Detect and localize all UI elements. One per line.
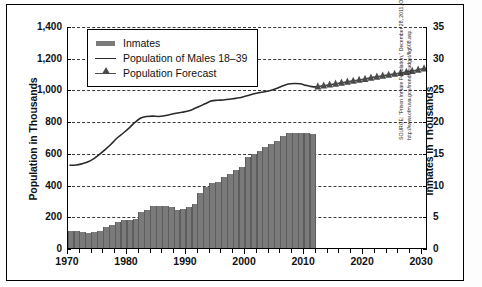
legend-label-population: Population of Males 18–39: [123, 53, 247, 64]
y-axis-right-line: [426, 27, 427, 249]
y-axis-right-tick-label: 5: [433, 212, 439, 222]
x-axis-tick: [126, 249, 127, 254]
y-axis-left-tick-label: 400: [45, 181, 62, 191]
y-axis-left-tick-label: 0: [56, 244, 62, 254]
x-axis-tick: [150, 249, 151, 253]
bar-swatch-icon: [95, 37, 117, 49]
x-axis-tick: [114, 249, 115, 253]
y-axis-left-tick-label: 200: [45, 212, 62, 222]
figure: Population in Thousands Inmates in Thous…: [0, 0, 482, 287]
y-axis-right-tick-label: 10: [433, 181, 444, 191]
y-axis-left-tick-label: 800: [45, 117, 62, 127]
chart-frame: Population in Thousands Inmates in Thous…: [6, 4, 464, 281]
x-axis-tick: [102, 249, 103, 253]
x-axis-tick: [291, 249, 292, 253]
legend-label-forecast: Population Forecast: [123, 68, 216, 79]
y-axis-left-tick-label: 600: [45, 149, 62, 159]
y-axis-right-tick-label: 35: [433, 22, 444, 32]
y-axis-left-tick-label: 1,000: [37, 85, 62, 95]
x-axis-tick-label: 2030: [409, 256, 432, 267]
x-axis-tick: [374, 249, 375, 253]
x-axis-tick: [67, 249, 68, 254]
x-axis-tick: [173, 249, 174, 253]
x-axis-tick: [161, 249, 162, 253]
x-axis-tick: [386, 249, 387, 253]
x-axis-tick: [220, 249, 221, 253]
legend-item-population: Population of Males 18–39: [95, 51, 247, 65]
x-axis-tick: [327, 249, 328, 253]
y-axis-right-tick: [423, 249, 427, 250]
y-axis-left-tick-label: 1,400: [37, 22, 62, 32]
x-axis-tick: [138, 249, 139, 253]
x-axis-tick-label: 1990: [173, 256, 196, 267]
y-axis-right-tick-label: 0: [433, 244, 439, 254]
x-axis-tick: [279, 249, 280, 253]
x-axis-tick-label: 1980: [114, 256, 137, 267]
line-population-males: [70, 83, 318, 165]
legend-label-inmates: Inmates: [123, 38, 160, 49]
y-axis-right-tick-label: 25: [433, 85, 444, 95]
x-axis-tick: [185, 249, 186, 254]
x-axis-tick-label: 2020: [350, 256, 373, 267]
y-axis-left-tick-label: 1,200: [37, 54, 62, 64]
x-axis-tick: [244, 249, 245, 254]
legend-item-forecast: Population Forecast: [95, 66, 247, 80]
line-swatch-icon: [95, 52, 117, 64]
chart-legend: Inmates Population of Males 18–39 Popula…: [87, 29, 258, 87]
x-axis-tick: [268, 249, 269, 253]
x-axis-tick: [362, 249, 363, 254]
x-axis-tick-label: 2010: [291, 256, 314, 267]
y-axis-right-tick-label: 15: [433, 149, 444, 159]
y-axis-left-line: [67, 27, 68, 249]
x-axis-tick: [209, 249, 210, 253]
x-axis-tick: [350, 249, 351, 253]
x-axis-tick: [91, 249, 92, 253]
x-axis-tick: [338, 249, 339, 253]
x-axis-tick: [79, 249, 80, 253]
y-axis-right-tick-label: 20: [433, 117, 444, 127]
x-axis-tick: [303, 249, 304, 254]
x-axis-tick: [397, 249, 398, 253]
x-axis-tick: [256, 249, 257, 253]
y-axis-right-tick-label: 30: [433, 54, 444, 64]
x-axis-line: [67, 248, 427, 249]
x-axis-tick: [421, 249, 422, 254]
x-axis-tick-label: 1970: [55, 256, 78, 267]
x-axis-tick: [197, 249, 198, 253]
legend-item-inmates: Inmates: [95, 36, 247, 50]
x-axis-tick: [409, 249, 410, 253]
source-note: SOURCE: "Prison Inmate Population," Dece…: [398, 0, 413, 140]
x-axis-tick-label: 2000: [232, 256, 255, 267]
x-axis-tick: [232, 249, 233, 253]
forecast-swatch-icon: [95, 67, 117, 79]
x-axis-tick: [315, 249, 316, 253]
